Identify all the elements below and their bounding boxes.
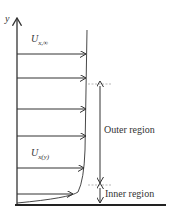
y-axis-label: y xyxy=(5,13,9,24)
boundary-layer-diagram: y Ux,∞ Ux(y) Outer region Inner region xyxy=(0,0,170,214)
outer-region-label: Outer region xyxy=(104,124,155,135)
diagram-graphics xyxy=(0,0,170,214)
free-stream-velocity-label: Ux,∞ xyxy=(31,33,48,47)
inner-region-label: Inner region xyxy=(105,188,154,199)
local-velocity-label: Ux(y) xyxy=(31,147,49,161)
velocity-profile-curve xyxy=(17,30,87,203)
